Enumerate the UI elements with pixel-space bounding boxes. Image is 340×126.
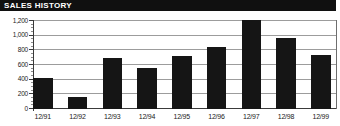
y-tick-label: 400 <box>0 75 28 83</box>
y-tick-label: 800 <box>0 46 28 54</box>
bar-12/97 <box>242 20 262 109</box>
y-tick-label: 1,000 <box>0 31 28 39</box>
y-tick-label: 200 <box>0 90 28 98</box>
bar-12/94 <box>137 68 157 109</box>
gridline <box>33 35 337 36</box>
x-tick-label: 12/94 <box>131 112 163 121</box>
x-tick-label: 12/98 <box>270 112 302 121</box>
chart-title: SALES HISTORY <box>4 1 72 10</box>
bar-12/93 <box>103 58 123 109</box>
x-tick-label: 12/92 <box>62 112 94 121</box>
x-tick-label: 12/95 <box>166 112 198 121</box>
bar-12/99 <box>311 55 331 109</box>
x-axis-labels: 12/9112/9212/9312/9412/9512/9612/9712/98… <box>33 112 340 122</box>
plot-right-border <box>336 20 337 109</box>
bar-12/92 <box>68 97 88 109</box>
x-tick-label: 12/96 <box>201 112 233 121</box>
x-tick-label: 12/91 <box>27 112 59 121</box>
sales-history-chart-widget: SALES HISTORY 02004006008001,0001,200 12… <box>0 0 340 126</box>
bar-12/95 <box>172 56 192 109</box>
bar-12/98 <box>276 38 296 109</box>
gridline <box>33 20 337 21</box>
y-tick-label: 600 <box>0 61 28 69</box>
plot-area <box>33 20 337 109</box>
x-tick-label: 12/97 <box>235 112 267 121</box>
bar-12/96 <box>207 47 227 109</box>
chart-title-bar: SALES HISTORY <box>0 0 336 11</box>
x-tick-label: 12/99 <box>305 112 337 121</box>
y-axis-labels: 02004006008001,0001,200 <box>0 20 28 115</box>
y-tick-label: 0 <box>0 105 28 113</box>
y-tick-label: 1,200 <box>0 17 28 25</box>
bar-12/91 <box>33 78 53 109</box>
x-tick-label: 12/93 <box>96 112 128 121</box>
